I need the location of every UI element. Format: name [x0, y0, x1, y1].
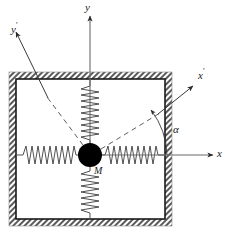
x-prime-mark: ′ — [203, 67, 205, 76]
left-spring — [17, 146, 79, 164]
x-prime-axis-line — [158, 86, 193, 114]
mass-circle — [78, 143, 102, 167]
angle-label-text: α — [173, 123, 179, 135]
x-axis-label: x — [217, 148, 222, 159]
y-axis-label-text: y — [85, 1, 90, 13]
y-prime-axis-line — [16, 32, 48, 98]
angle-label: α — [173, 124, 179, 135]
x-axis-label-text: x — [217, 147, 222, 159]
y-axis-label: y — [85, 2, 90, 13]
x-prime-axis-label: x′ — [198, 70, 205, 81]
y-prime-mark: ′ — [16, 21, 18, 30]
x-prime-dashed-segment — [101, 113, 160, 149]
physics-diagram-figure: y y′ x′ x α M — [0, 0, 228, 242]
mass-label: M — [94, 166, 102, 176]
diagram-canvas — [0, 0, 228, 242]
y-prime-dashed-segment — [47, 97, 83, 145]
mass-label-text: M — [94, 165, 102, 176]
y-prime-axis-label: y′ — [11, 24, 18, 35]
